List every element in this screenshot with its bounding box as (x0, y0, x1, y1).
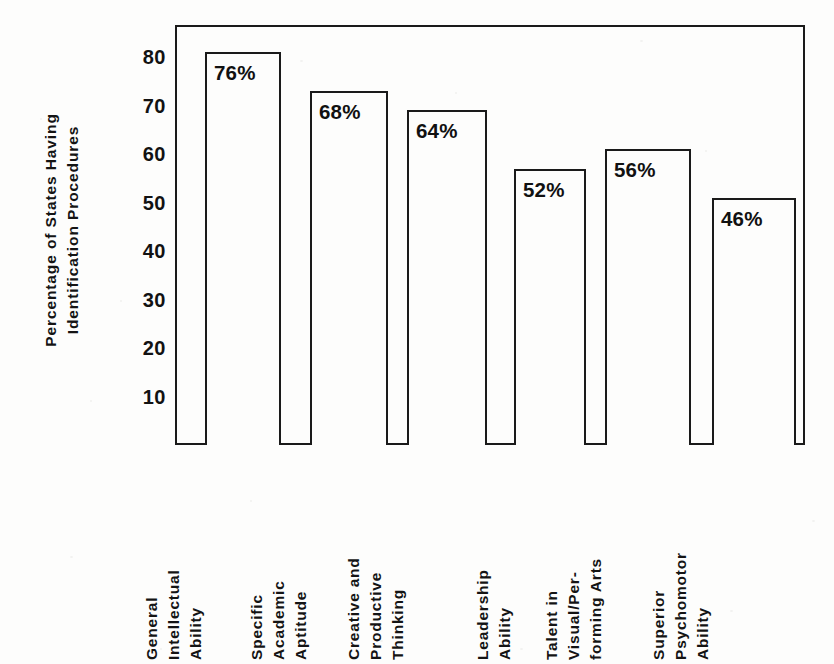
paper-speckle (70, 556, 73, 558)
category-label-line: Academic (268, 580, 290, 660)
category-label-line: Productive (365, 557, 387, 660)
y-axis-title: Percentage of States Having Identificati… (10, 30, 114, 430)
paper-speckle (300, 60, 303, 62)
category-label-line: Intellectual (163, 569, 185, 660)
y-axis-tick-70: 70 (110, 94, 166, 117)
bar-value-label: 56% (614, 158, 656, 182)
y-axis-tick-labels: 8070605040302010 (104, 0, 166, 470)
bar-value-label: 46% (721, 207, 763, 231)
paper-speckle (730, 610, 733, 612)
paper-speckle (812, 520, 815, 522)
bar-value-label: 76% (214, 61, 256, 85)
paper-speckle (520, 648, 523, 650)
category-label-line: Superior (648, 552, 670, 660)
category-label-line: Aptitude (290, 580, 312, 660)
paper-speckle (160, 648, 162, 650)
y-axis-tick-40: 40 (110, 240, 166, 263)
y-axis-title-line-1: Percentage of States Having (40, 113, 62, 347)
y-axis-tick-60: 60 (110, 143, 166, 166)
y-axis-tick-80: 80 (110, 46, 166, 69)
category-label-line: Specific (246, 580, 268, 660)
bar-value-label: 64% (416, 119, 458, 143)
y-axis-tick-10: 10 (110, 385, 166, 408)
bar-value-label: 68% (319, 100, 361, 124)
paper-speckle (90, 400, 92, 402)
paper-speckle (600, 655, 602, 657)
y-axis-title-line-2: Identification Procedures (62, 126, 84, 335)
chart-page: Percentage of States Having Identificati… (0, 0, 834, 664)
category-label-line: Thinking (387, 557, 409, 660)
bars-container: 76%68%64%52%56%46% (177, 27, 803, 443)
paper-speckle (705, 150, 707, 152)
paper-speckle (250, 500, 252, 502)
category-label-line: Leadership (472, 569, 494, 660)
category-label-line: Psychomotor (670, 552, 692, 660)
paper-speckle (40, 118, 42, 120)
category-label-line: Ability (185, 569, 207, 660)
category-label-line: Talent in (541, 558, 563, 660)
category-label-line: General (141, 569, 163, 660)
x-axis-category-6: SuperiorPsychomotorAbility (714, 455, 798, 660)
paper-speckle (120, 300, 122, 302)
y-axis-tick-50: 50 (110, 191, 166, 214)
bar: 56% (605, 149, 691, 445)
category-label-line: Ability (692, 552, 714, 660)
category-label-line: forming Arts (585, 558, 607, 660)
bar: 64% (407, 110, 487, 445)
category-label-line: Ability (494, 569, 516, 660)
category-label-line: Creative and (343, 557, 365, 660)
bar: 76% (205, 52, 281, 445)
y-axis-tick-30: 30 (110, 288, 166, 311)
bar-value-label: 52% (523, 178, 565, 202)
bar: 52% (514, 169, 586, 446)
bar: 68% (310, 91, 388, 445)
paper-speckle (380, 640, 383, 642)
paper-speckle (455, 92, 457, 94)
plot-frame: 76%68%64%52%56%46% (175, 25, 805, 445)
category-label-line: Visual/Per- (563, 558, 585, 660)
paper-speckle (640, 40, 643, 42)
x-axis-category-labels: GeneralIntellectualAbilitySpecificAcadem… (175, 455, 805, 660)
bar: 46% (712, 198, 796, 445)
y-axis-tick-20: 20 (110, 337, 166, 360)
